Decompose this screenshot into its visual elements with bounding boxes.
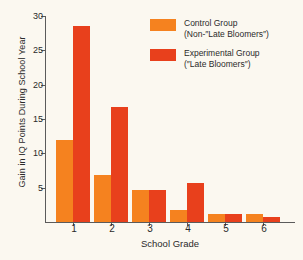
legend-swatch <box>150 49 176 61</box>
legend-label-line1: Experimental Group <box>184 48 260 59</box>
x-tick-label: 1 <box>56 223 92 234</box>
chart-figure: Gain in IQ Points During School Year 510… <box>0 0 303 260</box>
bar-experimental <box>111 107 128 222</box>
y-axis-title: Gain in IQ Points During School Year <box>17 12 27 212</box>
legend-label-line2: (Non-″Late Bloomers″) <box>184 29 269 40</box>
x-tick-label: 6 <box>246 223 282 234</box>
legend-label: Control Group(Non-″Late Bloomers″) <box>184 18 269 39</box>
bar-group <box>56 16 92 222</box>
x-tick-label: 2 <box>94 223 130 234</box>
bar-control <box>132 190 149 222</box>
legend-label-line1: Control Group <box>184 18 269 29</box>
bar-control <box>246 214 263 222</box>
x-tick-label: 5 <box>208 223 244 234</box>
bar-control <box>94 175 111 222</box>
legend-label-line2: (″Late Bloomers″) <box>184 59 260 70</box>
bar-experimental <box>73 26 90 222</box>
y-tick-label: 10 <box>3 153 43 154</box>
bar-experimental <box>225 214 242 222</box>
bar-control <box>208 214 225 222</box>
bar-group <box>94 16 130 222</box>
legend-label: Experimental Group(″Late Bloomers″) <box>184 48 260 69</box>
y-tick-label: 30 <box>3 16 43 17</box>
y-tick-label: 25 <box>3 50 43 51</box>
y-tick-label: 5 <box>3 188 43 189</box>
legend-item: Control Group(Non-″Late Bloomers″) <box>150 18 269 39</box>
bar-experimental <box>149 190 166 222</box>
legend-swatch <box>150 19 176 31</box>
bar-control <box>56 140 73 222</box>
legend-item: Experimental Group(″Late Bloomers″) <box>150 48 269 69</box>
bar-control <box>170 210 187 222</box>
chart-legend: Control Group(Non-″Late Bloomers″)Experi… <box>150 18 269 78</box>
x-tick-label: 3 <box>132 223 168 234</box>
y-tick-label: 15 <box>3 119 43 120</box>
x-axis-title: School Grade <box>45 238 295 249</box>
x-tick-label: 4 <box>170 223 206 234</box>
bar-experimental <box>187 183 204 222</box>
y-tick-label: 20 <box>3 85 43 86</box>
bar-experimental <box>263 217 280 222</box>
